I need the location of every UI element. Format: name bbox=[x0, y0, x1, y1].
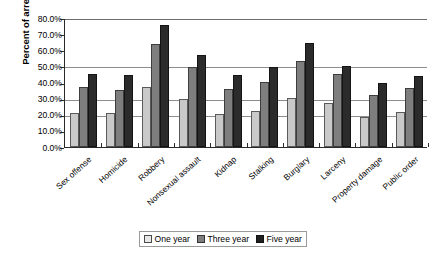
plot-area bbox=[64, 19, 427, 148]
bar-group bbox=[210, 19, 246, 147]
y-axis-tick-label: 20.0% bbox=[4, 111, 62, 120]
bar bbox=[197, 55, 206, 147]
legend-item: One year bbox=[144, 234, 190, 244]
legend-label: One year bbox=[155, 234, 190, 244]
bar bbox=[251, 111, 260, 147]
chart-legend: One yearThree yearFive year bbox=[139, 231, 307, 247]
bar bbox=[160, 25, 169, 147]
legend-item: Three year bbox=[197, 234, 249, 244]
bar-group bbox=[355, 19, 391, 147]
y-axis-tick-label: 50.0% bbox=[4, 63, 62, 72]
bar-chart: Percent of arrestees 80.0%70.0%60.0%50.0… bbox=[0, 0, 438, 264]
bar bbox=[269, 67, 278, 147]
bar bbox=[88, 74, 97, 147]
bar bbox=[70, 113, 79, 147]
y-axis-title: Percent of arrestees bbox=[18, 0, 34, 90]
y-axis-tick-mark bbox=[60, 148, 64, 149]
bar bbox=[79, 87, 88, 147]
bar-group bbox=[101, 19, 137, 147]
bar-series-container bbox=[65, 19, 427, 147]
x-axis-tick-mark bbox=[428, 143, 429, 147]
y-axis-tick-label: 30.0% bbox=[4, 95, 62, 104]
bar bbox=[378, 83, 387, 148]
y-axis-tick-label: 40.0% bbox=[4, 79, 62, 88]
bar bbox=[124, 75, 133, 147]
bar bbox=[324, 103, 333, 147]
bar bbox=[287, 98, 296, 147]
bar bbox=[296, 61, 305, 147]
bar bbox=[414, 76, 423, 147]
bar bbox=[333, 74, 342, 147]
bar bbox=[369, 95, 378, 147]
bar bbox=[151, 44, 160, 147]
bar bbox=[142, 87, 151, 147]
bar bbox=[342, 66, 351, 147]
bar-group bbox=[174, 19, 210, 147]
y-axis-tick-label: 10.0% bbox=[4, 127, 62, 136]
bar bbox=[396, 112, 405, 147]
bar bbox=[360, 117, 369, 147]
bar bbox=[115, 90, 124, 147]
legend-swatch-icon bbox=[144, 235, 152, 243]
bar bbox=[305, 43, 314, 147]
bar-group bbox=[283, 19, 319, 147]
y-axis-tick-label: 80.0% bbox=[4, 15, 62, 24]
legend-swatch-icon bbox=[197, 235, 205, 243]
bar bbox=[215, 114, 224, 147]
bar bbox=[188, 67, 197, 147]
bar-group bbox=[247, 19, 283, 147]
bar bbox=[405, 88, 414, 147]
bar-group bbox=[138, 19, 174, 147]
y-axis-tick-label: 0.0% bbox=[4, 144, 62, 153]
legend-swatch-icon bbox=[256, 235, 264, 243]
bar-group bbox=[319, 19, 355, 147]
bar-group bbox=[392, 19, 428, 147]
bar bbox=[179, 99, 188, 147]
bar bbox=[260, 82, 269, 147]
legend-item: Five year bbox=[256, 234, 302, 244]
bar bbox=[224, 89, 233, 147]
legend-label: Three year bbox=[207, 234, 249, 244]
y-axis-tick-label: 70.0% bbox=[4, 31, 62, 40]
bar bbox=[106, 113, 115, 147]
bar bbox=[233, 75, 242, 147]
y-axis-tick-label: 60.0% bbox=[4, 47, 62, 56]
legend-label: Five year bbox=[267, 234, 302, 244]
bar-group bbox=[65, 19, 101, 147]
